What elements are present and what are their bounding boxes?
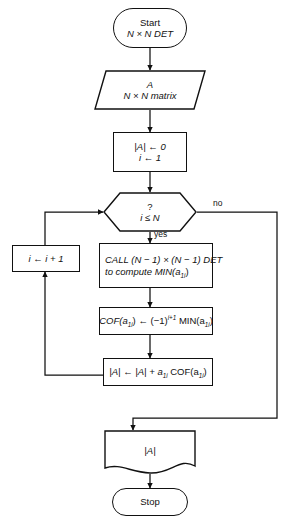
increment-process: i ← i + 1 — [12, 245, 80, 272]
init-process: |A| ← 0 i ← 1 — [113, 132, 187, 172]
output-determinant-shape: |A| — [104, 430, 196, 476]
start-line-1: Start — [140, 17, 160, 28]
input-matrix-shape: A N × N matrix — [94, 70, 206, 110]
cofactor-text-b: ) ← (−1) — [133, 315, 168, 326]
call-line-2-tail: ) — [185, 266, 188, 277]
call-det-process: CALL (N − 1) × (N − 1) DET to compute MI… — [99, 243, 213, 288]
call-line-1: CALL (N − 1) × (N − 1) DET — [105, 254, 222, 265]
input-line-2: N × N matrix — [123, 90, 176, 101]
call-line-2: to compute MIN(a1i) — [105, 266, 189, 277]
decision-yes-label: yes — [154, 229, 167, 239]
output-line-1: |A| — [144, 445, 155, 456]
cofactor-line-1: COF(a1i) ← (−1)i+1 MIN(a1i) — [99, 315, 213, 326]
accumulate-line-1: |A| ← |A| + a1i COF(a1i) — [109, 366, 207, 377]
cofactor-text-d: ) — [210, 315, 213, 326]
input-line-1: A — [147, 79, 153, 90]
decision-line-1: ? — [147, 201, 152, 212]
stop-line-1: Stop — [140, 496, 160, 507]
accumulate-process: |A| ← |A| + a1i COF(a1i) — [103, 358, 213, 386]
init-line-2: i ← 1 — [139, 152, 161, 163]
stop-terminal: Stop — [112, 488, 188, 516]
decision-no-label: no — [213, 198, 222, 208]
accumulate-text-a: |A| ← |A| + a — [109, 366, 162, 377]
flowchart-diagram: Start N × N DET A N × N matrix |A| ← 0 i… — [0, 0, 292, 527]
cofactor-sup-b: i+1 — [168, 314, 177, 321]
accumulate-text-c: ) — [204, 366, 207, 377]
cofactor-text-a: COF(a — [99, 315, 128, 326]
decision-line-2: i ≤ N — [140, 212, 159, 223]
init-line-1: |A| ← 0 — [134, 141, 165, 152]
start-line-2: N × N DET — [127, 28, 173, 39]
start-terminal: Start N × N DET — [113, 8, 187, 48]
accumulate-text-b: COF(a — [168, 366, 199, 377]
decision-i-le-n: ? i ≤ N — [103, 192, 197, 232]
cofactor-process: COF(a1i) ← (−1)i+1 MIN(a1i) — [99, 307, 213, 335]
increment-line-1: i ← i + 1 — [28, 253, 63, 264]
call-line-1-text: CALL (N − 1) × (N − 1) DET — [105, 254, 222, 265]
wire-loopback-up — [45, 272, 103, 375]
cofactor-text-c: MIN(a — [176, 315, 205, 326]
call-line-2-text: to compute MIN(a — [105, 266, 181, 277]
wire-increment-to-decision — [45, 212, 103, 245]
